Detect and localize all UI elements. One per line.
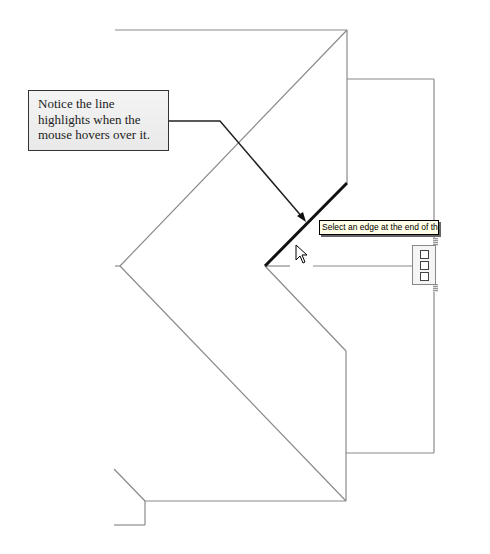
inner-diagonal-lower[interactable] xyxy=(265,266,346,351)
grip-square-3[interactable] xyxy=(420,272,429,281)
callout-leader xyxy=(169,121,303,218)
bottom-diagonal[interactable] xyxy=(114,469,145,501)
hover-tooltip: Select an edge at the end of the roof th… xyxy=(319,220,439,235)
roof-edge-lower-diagonal[interactable] xyxy=(120,266,346,501)
grip-square-2[interactable] xyxy=(420,261,429,270)
callout-line-3: mouse hovers over it. xyxy=(38,127,168,143)
edge-grip-handle[interactable] xyxy=(412,245,436,285)
mouse-pointer-icon xyxy=(296,245,307,263)
grip-square-1[interactable] xyxy=(420,250,429,259)
callout-line-1: Notice the line xyxy=(38,96,168,112)
grip-bar-bottom xyxy=(433,284,438,292)
annotation-callout: Notice the line highlights when the mous… xyxy=(28,90,169,151)
callout-line-2: highlights when the xyxy=(38,112,168,128)
